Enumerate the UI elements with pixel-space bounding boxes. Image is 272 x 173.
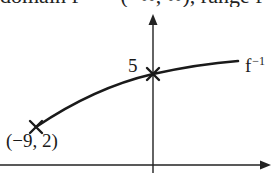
- curve-label-superscript: −1: [252, 54, 265, 68]
- y-intercept-label: 5: [128, 56, 138, 75]
- x-axis-arrow-icon: [260, 161, 271, 170]
- x-axis: [0, 161, 271, 170]
- y-axis: [149, 14, 158, 173]
- y-axis-arrow-icon: [149, 14, 158, 25]
- curve-label-base: f: [245, 55, 251, 76]
- curve-label: f−1: [245, 56, 265, 78]
- start-point-label: (−9, 2): [6, 131, 58, 150]
